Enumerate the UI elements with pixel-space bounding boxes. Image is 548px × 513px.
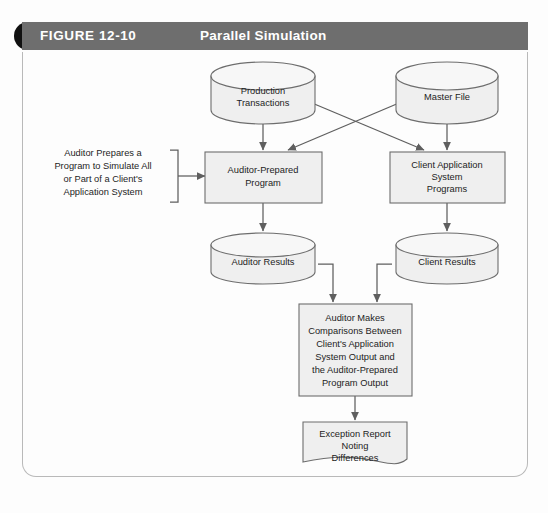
node-auditor-results: Auditor Results: [211, 233, 315, 284]
node-label-comparison-line3: Client's Application: [316, 339, 394, 349]
annotation-auditor-note: Auditor Prepares a Program to Simulate A…: [54, 148, 151, 197]
node-label-master-file: Master File: [424, 92, 470, 102]
node-label-auditor-program-line1: Auditor-Prepared: [228, 165, 299, 175]
node-label-comparison-line1: Auditor Makes: [325, 313, 385, 323]
node-label-comparison-line4: System Output and: [315, 352, 395, 362]
node-label-comparison-line5: the Auditor-Prepared: [312, 365, 398, 375]
node-label-production-transactions-line1: Production: [241, 86, 285, 96]
node-label-client-programs-line3: Programs: [427, 184, 468, 194]
figure-root: FIGURE 12-10 Parallel Simulation: [0, 0, 548, 513]
node-master-file: Master File: [396, 62, 498, 124]
node-label-exception-report-line1: Exception Report: [319, 429, 391, 439]
node-auditor-prepared-program: Auditor-Prepared Program: [205, 152, 322, 203]
annotation-bracket: [170, 150, 178, 202]
edge-client-results-to-comparison: [377, 264, 392, 302]
node-production-transactions: Production Transactions: [211, 62, 315, 124]
edge-auditor-results-to-comparison: [318, 264, 333, 302]
node-auditor-makes-comparisons: Auditor Makes Comparisons Between Client…: [299, 304, 412, 396]
node-label-production-transactions-line2: Transactions: [237, 98, 290, 108]
annotation-line1: Auditor Prepares a: [64, 148, 142, 158]
annotation-line4: Application System: [63, 187, 142, 197]
node-label-auditor-results: Auditor Results: [231, 257, 294, 267]
node-client-application-system-programs: Client Application System Programs: [390, 152, 505, 203]
node-exception-report: Exception Report Noting Differences: [303, 422, 407, 464]
node-label-exception-report-line3: Differences: [332, 453, 379, 463]
node-label-client-results: Client Results: [418, 257, 476, 267]
node-label-comparison-line6: Program Output: [322, 378, 389, 388]
node-label-auditor-program-line2: Program: [245, 178, 281, 188]
node-label-client-programs-line1: Client Application: [411, 160, 482, 170]
node-label-exception-report-line2: Noting: [342, 441, 369, 451]
parallel-simulation-diagram: Production Transactions Master File Audi…: [0, 0, 548, 513]
node-client-results: Client Results: [396, 233, 498, 284]
annotation-line2: Program to Simulate All: [54, 161, 151, 171]
node-label-comparison-line2: Comparisons Between: [308, 326, 402, 336]
node-label-client-programs-line2: System: [432, 172, 463, 182]
annotation-line3: or Part of a Client's: [64, 174, 143, 184]
